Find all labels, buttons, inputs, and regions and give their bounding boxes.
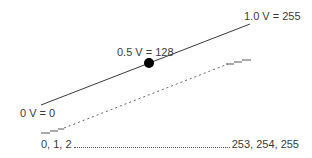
scale-start-values: 0, 1, 2 xyxy=(41,138,72,150)
staircase-upper-steps xyxy=(226,60,251,64)
label-max-voltage: 1.0 V = 255 xyxy=(244,10,301,22)
label-mid-voltage: 0.5 V = 128 xyxy=(117,46,174,58)
label-zero-voltage: 0 V = 0 xyxy=(20,107,55,119)
midpoint-marker-dot xyxy=(144,58,154,68)
digital-scale-row: 0, 1, 2 253, 254, 255 xyxy=(41,138,299,150)
scale-end-values: 253, 254, 255 xyxy=(232,138,299,150)
staircase-lower-steps xyxy=(41,129,64,133)
diagram-graphics xyxy=(0,0,312,158)
scale-dotted-leader xyxy=(74,146,230,148)
diagram-canvas: 1.0 V = 255 0.5 V = 128 0 V = 0 0, 1, 2 … xyxy=(0,0,312,158)
digital-staircase-dashed-line xyxy=(64,64,228,128)
